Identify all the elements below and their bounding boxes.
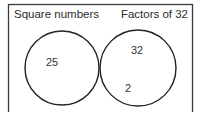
venn-diagram: Square numbers Factors of 32 25 32 2 xyxy=(0,0,200,112)
universal-set-frame xyxy=(9,5,193,113)
set-label-square-numbers: Square numbers xyxy=(14,9,99,21)
right-only-value: 32 xyxy=(131,45,143,56)
set-label-factors-of-32: Factors of 32 xyxy=(121,9,188,21)
left-only-value: 25 xyxy=(46,57,58,68)
right-only-value: 2 xyxy=(125,83,131,94)
